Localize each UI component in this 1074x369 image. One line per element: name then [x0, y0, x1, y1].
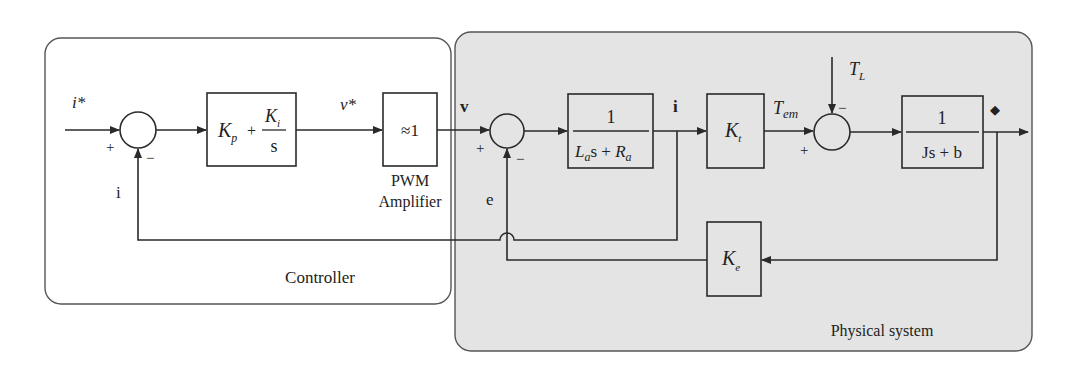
- pwm-gain: ≈1: [401, 121, 419, 140]
- pi-plus: +: [247, 122, 256, 139]
- omega-label: ◆: [990, 102, 1000, 117]
- i-feedback-label: i: [116, 183, 121, 202]
- physical-system-region: [455, 32, 1032, 351]
- electrical-num: 1: [607, 107, 616, 127]
- i-ref-label: i*: [72, 93, 86, 112]
- sum1-plus-sign: +: [106, 139, 114, 155]
- v-label: v: [460, 97, 469, 116]
- sum3-minus-sign: −: [838, 100, 846, 116]
- sum2-minus-sign: −: [516, 151, 524, 167]
- sum1-minus-sign: −: [146, 150, 154, 166]
- physical-system-label: Physical system: [831, 322, 934, 340]
- e-label: e: [486, 190, 494, 209]
- v-ref-label: v*: [340, 95, 357, 114]
- mechanical-num: 1: [938, 108, 947, 128]
- pwm-caption-2: Amplifier: [378, 193, 442, 211]
- pi-den: s: [270, 136, 277, 156]
- mechanical-den: Js + b: [922, 143, 962, 162]
- motor-current-control-block-diagram: Controller Physical system i* + − Kp + K…: [0, 0, 1074, 369]
- pwm-caption-1: PWM: [391, 172, 429, 189]
- i-output-label: i: [673, 97, 678, 116]
- electrical-den: Las + Ra: [574, 142, 632, 164]
- sum3-plus-sign: +: [800, 142, 808, 158]
- controller-label: Controller: [285, 268, 355, 287]
- controller-region: [45, 38, 451, 304]
- sum2-plus-sign: +: [476, 140, 484, 156]
